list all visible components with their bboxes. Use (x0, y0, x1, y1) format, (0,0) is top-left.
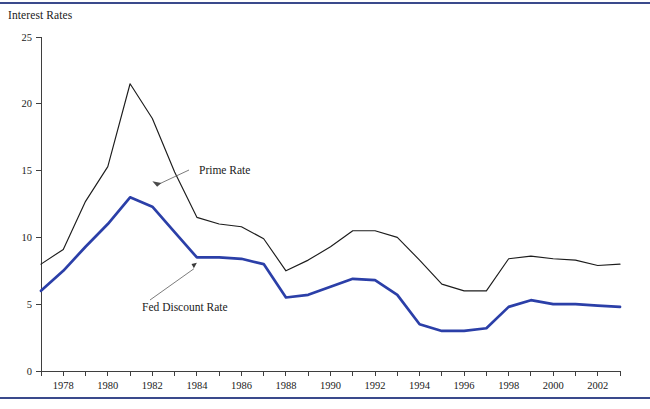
x-axis-tick-label: 1984 (186, 380, 208, 391)
y-axis-tick-label: 5 (27, 299, 32, 310)
x-axis-tick-label: 1996 (454, 380, 475, 391)
axis-lines (41, 37, 620, 371)
x-axis-tick-label: 1980 (97, 380, 118, 391)
series-line-prime-rate (41, 84, 620, 291)
interest-rates-line-chart: 0510152025197819801982198419861988199019… (0, 0, 650, 395)
series-line-fed-discount-rate (41, 197, 620, 331)
fed-discount-rate-annotation-label: Fed Discount Rate (142, 301, 228, 313)
chart-annotations: Prime RateFed Discount Rate (142, 164, 250, 313)
bottom-divider-rule (0, 397, 650, 399)
prime-rate-annotation-label: Prime Rate (199, 164, 250, 176)
x-axis-tick-label: 1990 (320, 380, 341, 391)
fed-discount-rate-arrowhead (191, 263, 196, 269)
x-axis-tick-label: 1988 (275, 380, 296, 391)
prime-rate-arrowhead (152, 181, 161, 187)
x-axis-tick-label: 1986 (231, 380, 252, 391)
y-axis-tick-label: 25 (22, 32, 33, 43)
fed-discount-rate-leader-line (150, 269, 194, 300)
chart-plot-area: 0510152025197819801982198419861988199019… (0, 0, 650, 395)
y-axis-tick-label: 20 (22, 98, 33, 109)
y-axis-tick-label: 15 (22, 165, 33, 176)
chart-series (41, 84, 620, 331)
x-axis-tick-label: 1982 (142, 380, 163, 391)
x-axis-tick-label: 2002 (587, 380, 608, 391)
chart-axes: 0510152025197819801982198419861988199019… (22, 32, 621, 391)
y-axis-tick-label: 0 (27, 366, 32, 377)
x-axis-tick-label: 2000 (543, 380, 564, 391)
x-axis-tick-label: 1998 (498, 380, 519, 391)
x-axis-tick-label: 1992 (365, 380, 386, 391)
x-axis-tick-label: 1994 (409, 380, 431, 391)
x-axis-tick-label: 1978 (53, 380, 74, 391)
prime-rate-leader-line (156, 170, 189, 185)
y-axis-tick-label: 10 (22, 232, 33, 243)
